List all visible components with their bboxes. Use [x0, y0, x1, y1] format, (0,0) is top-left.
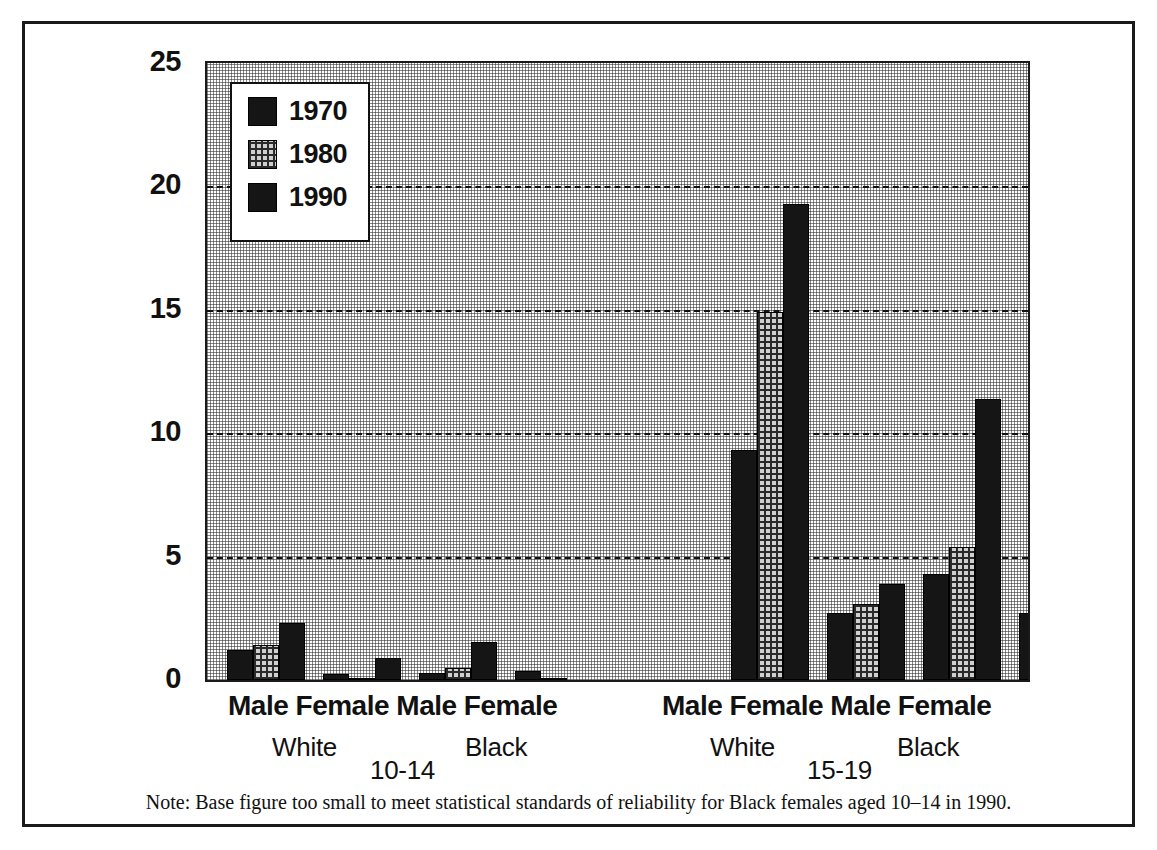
chart-legend: 197019801990 — [230, 82, 370, 242]
gridline-10 — [207, 433, 1028, 435]
bar-15-19-White-Female-1970 — [827, 613, 853, 680]
bar-10-14-Black-Male-1980 — [445, 668, 471, 680]
legend-swatch-1970 — [248, 97, 277, 126]
bar-10-14-Black-Female-1970 — [515, 671, 541, 680]
xaxis-race-black-10-14: Black — [465, 732, 527, 763]
bar-15-19-White-Male-1980 — [757, 312, 783, 680]
y-tick-20: 20 — [150, 168, 181, 201]
gridline-15 — [207, 310, 1028, 312]
bar-10-14-White-Female-1980 — [349, 678, 375, 680]
bar-10-14-Black-Male-1970 — [419, 673, 445, 680]
bar-15-19-Black-Male-1990 — [975, 399, 1001, 680]
bar-15-19-Black-Female-1970 — [1019, 613, 1030, 680]
xaxis-age-10-14: 10-14 — [370, 755, 435, 786]
legend-label-1990: 1990 — [289, 182, 347, 213]
legend-swatch-1980 — [248, 140, 277, 169]
bar-10-14-White-Male-1970 — [227, 650, 253, 680]
y-tick-0: 0 — [165, 662, 181, 695]
bar-10-14-White-Female-1970 — [323, 674, 349, 680]
bar-15-19-White-Male-1990 — [783, 204, 809, 680]
gridline-5 — [207, 557, 1028, 559]
legend-item-1990: 1990 — [248, 182, 368, 213]
y-tick-15: 15 — [150, 291, 181, 324]
y-tick-25: 25 — [150, 45, 181, 78]
bar-10-14-White-Male-1980 — [253, 645, 279, 680]
bar-10-14-Black-Male-1990 — [471, 642, 497, 680]
bar-10-14-Black-Female-1980 — [541, 678, 567, 680]
xaxis-race-white-15-19: White — [710, 732, 775, 763]
chart-note: Note: Base figure too small to meet stat… — [25, 791, 1132, 814]
bar-10-14-White-Male-1990 — [279, 623, 305, 680]
y-tick-5: 5 — [165, 538, 181, 571]
xaxis-age-15-19: 15-19 — [807, 755, 872, 786]
bar-15-19-Black-Male-1970 — [923, 574, 949, 680]
legend-swatch-1990 — [248, 183, 277, 212]
bar-10-14-White-Female-1990 — [375, 658, 401, 680]
xaxis-race-white-10-14: White — [272, 732, 337, 763]
bar-15-19-Black-Male-1980 — [949, 547, 975, 680]
xaxis-sexes-15-19: Male Female Male Female — [662, 690, 991, 722]
legend-label-1970: 1970 — [289, 96, 347, 127]
bar-15-19-White-Female-1980 — [853, 604, 879, 681]
y-axis: 0510152025 — [125, 61, 193, 682]
bar-15-19-White-Male-1970 — [731, 450, 757, 680]
bar-15-19-White-Female-1990 — [879, 584, 905, 680]
xaxis-sexes-10-14: Male Female Male Female — [228, 690, 557, 722]
figure-frame: 0510152025 197019801990 Male Female Male… — [22, 21, 1135, 827]
legend-item-1970: 1970 — [248, 96, 368, 127]
y-tick-10: 10 — [150, 415, 181, 448]
legend-label-1980: 1980 — [289, 139, 347, 170]
xaxis-race-black-15-19: Black — [897, 732, 959, 763]
legend-item-1980: 1980 — [248, 139, 368, 170]
